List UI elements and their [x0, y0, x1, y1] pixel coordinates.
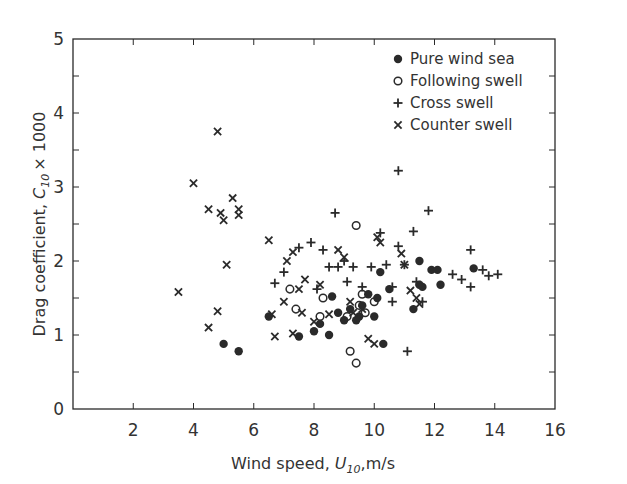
data-point-filled-circle-marker [325, 331, 333, 339]
data-point-filled-circle-marker [469, 264, 477, 272]
legend-label: Cross swell [410, 94, 494, 112]
data-point-x-marker [407, 287, 414, 294]
data-point-filled-circle-marker [334, 309, 342, 317]
data-point-x-marker [190, 180, 197, 187]
data-point-x-marker [271, 333, 278, 340]
x-tick-label: 10 [363, 420, 385, 440]
series-cross-swell [270, 166, 502, 356]
data-point-x-marker [280, 298, 287, 305]
x-tick-label: 2 [128, 420, 139, 440]
data-point-x-marker [175, 288, 182, 295]
data-point-filled-circle-marker [234, 347, 242, 355]
scatter-chart: 246810121416012345 Pure wind seaFollowin… [0, 0, 627, 484]
x-tick-label: 16 [544, 420, 566, 440]
data-point-plus-marker [367, 262, 376, 271]
legend-item: Following swell [394, 72, 522, 90]
data-point-plus-marker [334, 262, 343, 271]
legend-open-circle-icon [394, 77, 402, 85]
data-point-plus-marker [388, 297, 397, 306]
data-point-x-marker [265, 237, 272, 244]
axis-tick-labels: 246810121416012345 [53, 29, 566, 440]
x-tick-label: 4 [188, 420, 199, 440]
data-point-x-marker [295, 286, 302, 293]
series-pure-wind-sea [219, 257, 477, 356]
data-point-filled-circle-marker [376, 268, 384, 276]
data-point-plus-marker [478, 265, 487, 274]
data-point-x-marker [398, 250, 405, 257]
y-tick-label: 4 [53, 103, 64, 123]
data-point-x-marker [205, 324, 212, 331]
x-tick-label: 12 [424, 420, 446, 440]
data-point-x-marker [220, 217, 227, 224]
legend: Pure wind seaFollowing swellCross swellC… [394, 50, 523, 134]
data-point-x-marker [214, 128, 221, 135]
data-point-filled-circle-marker [433, 266, 441, 274]
series-counter-swell [175, 128, 423, 348]
data-point-x-marker [283, 257, 290, 264]
legend-plus-icon [394, 99, 403, 108]
data-point-open-circle-marker [352, 222, 360, 230]
data-point-filled-circle-marker [310, 327, 318, 335]
x-axis-title: Wind speed, U10,m/s [231, 454, 395, 476]
data-point-plus-marker [382, 260, 391, 269]
data-point-filled-circle-marker [370, 312, 378, 320]
data-point-open-circle-marker [286, 285, 294, 293]
y-tick-label: 1 [53, 325, 64, 345]
data-point-x-marker [214, 308, 221, 315]
data-points [175, 128, 502, 367]
data-point-x-marker [301, 276, 308, 283]
legend-label: Counter swell [410, 116, 512, 134]
legend-x-icon [394, 121, 401, 128]
data-point-x-marker [298, 309, 305, 316]
data-point-plus-marker [394, 242, 403, 251]
data-point-plus-marker [331, 208, 340, 217]
y-tick-label: 2 [53, 251, 64, 271]
data-point-plus-marker [319, 245, 328, 254]
legend-filled-circle-icon [394, 55, 402, 63]
legend-item: Pure wind sea [394, 50, 515, 68]
data-point-filled-circle-marker [418, 283, 426, 291]
data-point-filled-circle-marker [436, 280, 444, 288]
data-point-x-marker [335, 246, 342, 253]
data-point-plus-marker [306, 238, 315, 247]
y-tick-label: 5 [53, 29, 64, 49]
data-point-x-marker [289, 330, 296, 337]
y-axis-title: Drag coefficient, C10× 1000 [30, 112, 52, 337]
data-point-plus-marker [424, 206, 433, 215]
legend-item: Cross swell [394, 94, 494, 112]
data-point-plus-marker [325, 262, 334, 271]
data-point-plus-marker [403, 347, 412, 356]
data-point-filled-circle-marker [415, 257, 423, 265]
data-point-plus-marker [409, 227, 418, 236]
data-point-x-marker [235, 212, 242, 219]
data-point-open-circle-marker [352, 359, 360, 367]
data-point-plus-marker [394, 166, 403, 175]
data-point-open-circle-marker [319, 294, 327, 302]
data-point-open-circle-marker [346, 347, 354, 355]
data-point-plus-marker [466, 245, 475, 254]
data-point-filled-circle-marker [219, 340, 227, 348]
x-tick-label: 8 [309, 420, 320, 440]
data-point-plus-marker [279, 268, 288, 277]
data-point-filled-circle-marker [328, 292, 336, 300]
data-point-plus-marker [448, 270, 457, 279]
data-point-plus-marker [358, 282, 367, 291]
data-point-plus-marker [466, 282, 475, 291]
data-point-plus-marker [484, 271, 493, 280]
data-point-plus-marker [270, 279, 279, 288]
legend-item: Counter swell [394, 116, 512, 134]
x-tick-label: 14 [484, 420, 506, 440]
data-point-x-marker [347, 298, 354, 305]
x-tick-label: 6 [248, 420, 259, 440]
data-point-x-marker [223, 261, 230, 268]
y-tick-label: 0 [53, 399, 64, 419]
legend-label: Pure wind sea [410, 50, 515, 68]
y-tick-label: 3 [53, 177, 64, 197]
data-point-plus-marker [349, 262, 358, 271]
data-point-x-marker [371, 340, 378, 347]
data-point-filled-circle-marker [379, 340, 387, 348]
data-point-filled-circle-marker [352, 316, 360, 324]
data-point-plus-marker [294, 243, 303, 252]
data-point-x-marker [289, 249, 296, 256]
data-point-x-marker [205, 206, 212, 213]
